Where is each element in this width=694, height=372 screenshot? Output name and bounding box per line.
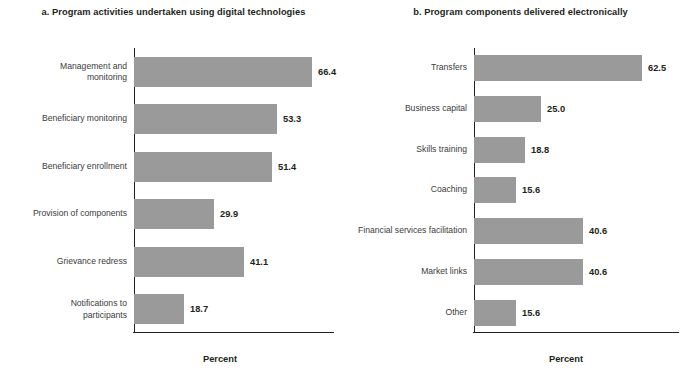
bar-value-label: 62.5 [648, 63, 666, 73]
figure-two-panel-bar-charts: a. Program activities undertaken using d… [0, 0, 694, 372]
bar-row: Market links 40.6 [474, 259, 686, 285]
bar-row: Notifications to participants 18.7 [134, 294, 339, 324]
category-label: Other [337, 307, 467, 319]
bar-value-label: 15.6 [522, 308, 540, 318]
bar [474, 137, 525, 163]
category-label: Transfers [337, 63, 467, 75]
panel-a-title: a. Program activities undertaken using d… [0, 7, 347, 17]
bar-row: Business capital 25.0 [474, 96, 686, 122]
bar [134, 152, 272, 182]
bar-value-label: 40.6 [589, 226, 607, 236]
category-label: Notifications to participants [0, 298, 127, 321]
bar-value-label: 15.6 [522, 185, 540, 195]
bar-value-label: 53.3 [283, 114, 301, 124]
chart-panel-a: a. Program activities undertaken using d… [0, 0, 347, 372]
category-label: Provision of components [0, 209, 127, 221]
panel-b-plot-area: Transfers 62.5 Business capital 25.0 Ski… [474, 48, 686, 342]
bar-value-label: 40.6 [589, 267, 607, 277]
panel-a-plot-area: Management and monitoring 66.4 Beneficia… [134, 48, 339, 342]
category-label: Coaching [337, 185, 467, 197]
bar [474, 218, 583, 244]
bar-row: Coaching 15.6 [474, 177, 686, 203]
category-label: Skills training [337, 144, 467, 156]
bar-row: Management and monitoring 66.4 [134, 57, 339, 87]
category-label: Financial services facilitation [337, 225, 467, 237]
bar [474, 177, 516, 203]
panel-a-bar-rows: Management and monitoring 66.4 Beneficia… [134, 48, 339, 333]
panel-a-x-axis-title: Percent [110, 354, 330, 364]
bar [474, 300, 516, 326]
category-label: Business capital [337, 103, 467, 115]
category-label: Beneficiary enrollment [0, 161, 127, 173]
bar-row: Skills training 18.8 [474, 137, 686, 163]
bar-row: Transfers 62.5 [474, 55, 686, 81]
bar [134, 104, 277, 134]
bar [474, 96, 541, 122]
panel-b-x-axis-title: Percent [451, 354, 681, 364]
bar-value-label: 66.4 [318, 67, 336, 77]
category-label: Beneficiary monitoring [0, 114, 127, 126]
bar-row: Financial services facilitation 40.6 [474, 218, 686, 244]
bar [474, 55, 642, 81]
bar-row: Grievance redress 41.1 [134, 247, 339, 277]
bar-row: Beneficiary monitoring 53.3 [134, 104, 339, 134]
category-label: Market links [337, 266, 467, 278]
category-label: Grievance redress [0, 256, 127, 268]
bar-value-label: 41.1 [250, 257, 268, 267]
category-label: Management and monitoring [0, 60, 127, 83]
bar [134, 57, 312, 87]
bar-row: Provision of components 29.9 [134, 199, 339, 229]
bar-value-label: 29.9 [220, 209, 238, 219]
bar-value-label: 25.0 [547, 104, 565, 114]
bar-value-label: 18.7 [190, 304, 208, 314]
panel-b-title: b. Program components delivered electron… [347, 7, 694, 17]
bar-row: Other 15.6 [474, 300, 686, 326]
bar-value-label: 51.4 [278, 162, 296, 172]
bar-value-label: 18.8 [531, 145, 549, 155]
panel-b-bar-rows: Transfers 62.5 Business capital 25.0 Ski… [474, 48, 686, 333]
bar-row: Beneficiary enrollment 51.4 [134, 152, 339, 182]
bar [474, 259, 583, 285]
chart-panel-b: b. Program components delivered electron… [347, 0, 694, 372]
bar [134, 247, 244, 277]
bar [134, 294, 184, 324]
bar [134, 199, 214, 229]
